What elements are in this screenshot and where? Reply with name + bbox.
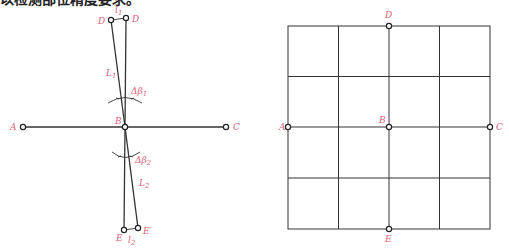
grid-label-c: C — [496, 122, 503, 132]
grid-point-b — [386, 124, 391, 129]
point-a — [20, 124, 25, 129]
point-e-prime — [135, 225, 140, 230]
grid-label-a: A — [278, 122, 286, 132]
point-e — [121, 227, 126, 232]
label-l2-small: l2 — [128, 235, 136, 247]
point-c — [223, 124, 228, 129]
label-d-prime: D′ — [97, 16, 107, 26]
label-l1-small: l1 — [115, 5, 122, 17]
point-d-prime — [108, 17, 113, 22]
left-deviation-diagram: A B C D D′ E E′ l1 l2 L1 L2 Δβ1 Δβ2 — [0, 0, 260, 248]
line-b-e — [124, 127, 125, 230]
grid-point-c — [487, 124, 492, 129]
grid-point-e — [386, 226, 391, 231]
label-c: C — [233, 122, 240, 132]
label-a: A — [9, 122, 17, 132]
line-b-e-prime — [125, 127, 138, 228]
label-l1-length: L1 — [105, 68, 116, 80]
point-b — [122, 124, 127, 129]
label-delta-beta2: Δβ2 — [134, 155, 152, 167]
grid-label-d: D — [384, 10, 392, 20]
line-b-d — [125, 18, 126, 127]
point-d — [123, 15, 128, 20]
label-b: B — [114, 116, 122, 126]
grid-point-a — [285, 124, 290, 129]
label-d: D — [131, 14, 139, 24]
label-delta-beta1: Δβ1 — [130, 86, 147, 98]
grid-point-d — [386, 23, 391, 28]
label-e-prime: E′ — [142, 226, 152, 236]
grid-border — [288, 26, 490, 229]
label-l2-length: L2 — [138, 178, 150, 190]
grid-label-b: B — [378, 115, 386, 125]
label-e: E — [115, 233, 123, 243]
grid-label-e: E — [384, 234, 392, 244]
